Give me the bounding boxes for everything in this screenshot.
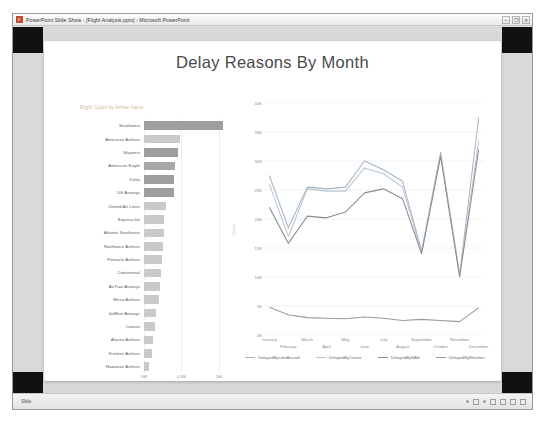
legend-item[interactable]: DelayedByWeather [436,355,485,360]
bar-chart-bar[interactable] [144,135,180,144]
bar-chart-bar[interactable] [144,175,174,184]
bar-chart-bar[interactable] [144,242,163,251]
notes-icon[interactable] [473,399,479,405]
bar-chart-gridline [181,333,182,346]
bar-chart-gridline [219,360,220,373]
legend-item[interactable]: DelayedByNAS [378,355,420,360]
slideshow-stage[interactable]: Delay Reasons By Month Flight Count by A… [13,27,532,394]
bar-chart-category-label: Mesa Airlines [78,297,144,302]
bar-chart-gridline [219,213,220,226]
bar-chart-track [144,213,230,226]
bar-chart-track [144,253,230,266]
bar-chart-row: Alaska Airlines [78,333,230,346]
maximize-button[interactable]: ❐ [512,16,520,24]
bar-chart-category-label: Delta [78,177,144,182]
bar-chart-track [144,347,230,360]
line-chart-series[interactable] [269,307,478,322]
line-chart-series[interactable] [269,149,478,277]
slideshow-view-icon[interactable] [520,399,526,405]
minimize-button[interactable]: – [502,16,510,24]
reading-view-icon[interactable] [510,399,516,405]
bar-chart-category-label: US Airways [78,190,144,195]
bar-chart-gridline [219,132,220,145]
bar-chart-bar[interactable] [144,215,164,224]
bar-chart[interactable]: Flight Count by Airline Name SouthwestAm… [78,105,230,370]
line-chart-y-tick: 10K [255,275,262,280]
line-chart-y-tick: 15K [255,246,262,251]
status-bar-icons[interactable] [466,399,526,405]
bar-chart-bar[interactable] [144,162,175,171]
line-chart-y-tick: 5K [257,304,262,309]
bar-chart-track [144,199,230,212]
window-titlebar[interactable]: P PowerPoint Slide Show - [Flight Analys… [13,14,532,26]
bar-chart-track [144,333,230,346]
legend-label: DelayedByCarrier [329,355,362,360]
bar-chart-bar[interactable] [144,309,156,318]
line-chart-x-tick: February [280,344,297,349]
line-chart-x-tick: January [262,337,277,342]
window-controls[interactable]: – ❐ ✕ [502,16,530,24]
bar-chart-gridline [219,347,220,360]
legend-swatch [436,357,446,358]
bar-chart-gridline [181,186,182,199]
bar-chart-gridline [181,360,182,373]
bar-chart-gridline [219,280,220,293]
line-chart-y-tick: 30K [255,159,262,164]
legend-item[interactable]: DelayedByCarrier [316,355,362,360]
bar-chart-category-label: AirTran Airways [78,284,144,289]
bar-chart-category-label: Continental [78,270,144,275]
bar-chart-bar[interactable] [144,295,159,304]
legend-label: DelayedByWeather [449,355,485,360]
bar-chart-category-label: Southwest [78,123,144,128]
line-chart-x-axis: JanuaryFebruaryMarchAprilMayJuneJulyAugu… [264,336,484,354]
line-chart-y-tick: 40K [255,101,262,106]
bar-chart-bar[interactable] [144,255,162,264]
bar-chart-category-label: JetBlue Airways [78,311,144,316]
line-chart-legend[interactable]: DelayedByLateAircraftDelayedByCarrierDel… [246,355,484,360]
bar-chart-bar[interactable] [144,148,178,157]
bar-chart-bar[interactable] [144,349,152,358]
bar-chart-gridline [181,213,182,226]
bar-chart-bar[interactable] [144,229,164,238]
bar-chart-bar[interactable] [144,269,161,278]
bar-chart-gridline [219,253,220,266]
line-chart-y-tick: 20K [255,217,262,222]
legend-label: DelayedByLateAircraft [258,355,300,360]
bar-chart-gridline [181,132,182,145]
slide-canvas[interactable]: Delay Reasons By Month Flight Count by A… [44,41,501,381]
bar-chart-gridline [219,293,220,306]
bar-chart-title: Flight Count by Airline Name [80,105,230,110]
legend-item[interactable]: DelayedByLateAircraft [245,355,300,360]
line-chart-y-axis-title: Delays [232,225,236,236]
bar-chart-row: Skywest [78,146,230,159]
bar-chart-gridline [181,253,182,266]
bar-chart-row: US Airways [78,186,230,199]
close-button[interactable]: ✕ [522,16,530,24]
bar-chart-row: Delta [78,173,230,186]
bar-chart-bar[interactable] [144,322,155,331]
line-chart[interactable]: Delays 0K5K10K15K20K25K30K35K40K January… [236,103,484,375]
bar-chart-bar[interactable] [144,202,166,211]
line-chart-x-tick: April [322,344,330,349]
bar-chart-bar[interactable] [144,121,223,130]
bar-chart-row: Comair [78,320,230,333]
bar-chart-row: United Air Lines [78,199,230,212]
bar-chart-bar[interactable] [144,282,160,291]
bar-chart-bar[interactable] [144,188,174,197]
powerpoint-app-icon: P [16,16,23,23]
line-chart-plot-area [264,103,484,335]
line-chart-x-tick: August [396,344,409,349]
bar-chart-row: American Eagle [78,159,230,172]
bar-chart-bar[interactable] [144,336,153,345]
slide-title: Delay Reasons By Month [44,53,501,72]
bar-chart-gridline [181,240,182,253]
bar-chart-track [144,173,230,186]
normal-view-icon[interactable] [490,399,496,405]
bar-chart-bar[interactable] [144,362,149,371]
status-bar[interactable]: Slide [13,393,532,409]
sorter-view-icon[interactable] [500,399,506,405]
bar-chart-category-label: Northwest Airlines [78,244,144,249]
bar-chart-row: AirTran Airways [78,280,230,293]
bar-chart-gridline [219,186,220,199]
bar-chart-category-label: ExpressJet [78,217,144,222]
